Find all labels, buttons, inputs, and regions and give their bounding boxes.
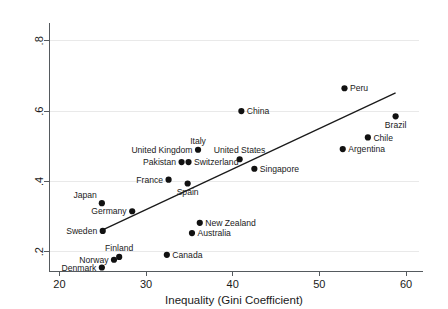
data-point[interactable] (164, 252, 170, 258)
data-point[interactable] (111, 257, 117, 263)
data-point[interactable] (165, 177, 171, 183)
y-tick-label: .2 (33, 247, 45, 256)
data-point-label: Switzerland (194, 157, 239, 167)
x-tick-label: 60 (400, 278, 412, 290)
data-point-label: Italy (190, 136, 206, 146)
data-point[interactable] (393, 113, 399, 119)
data-point-label: Brazil (385, 120, 407, 130)
data-point-label: United Kingdom (131, 145, 192, 155)
data-point-label: Peru (350, 83, 368, 93)
data-point[interactable] (99, 200, 105, 206)
data-point[interactable] (341, 85, 347, 91)
data-point-label: Germany (91, 206, 127, 216)
data-point[interactable] (185, 159, 191, 165)
data-point-label: Singapore (260, 164, 299, 174)
data-point[interactable] (195, 147, 201, 153)
x-tick-label: 30 (140, 278, 152, 290)
plot-area: .2.4.6.82030405060PeruChinaBrazilChileAr… (0, 0, 448, 309)
data-point-label: New Zealand (205, 218, 256, 228)
scatter-chart: .2.4.6.82030405060PeruChinaBrazilChileAr… (0, 0, 448, 309)
data-point-label: United States (214, 145, 266, 155)
data-point-label: Chile (373, 133, 393, 143)
data-point[interactable] (99, 264, 105, 270)
data-point-label: China (247, 106, 270, 116)
data-point-label: Finland (105, 243, 133, 253)
data-point-label: Australia (197, 228, 231, 238)
data-point[interactable] (178, 159, 184, 165)
data-point-label: Spain (177, 187, 199, 197)
data-point-label: Denmark (61, 263, 97, 273)
data-point-label: Canada (172, 250, 202, 260)
data-point-label: Argentina (348, 144, 385, 154)
y-tick-label: .4 (33, 177, 45, 186)
x-tick-label: 20 (53, 278, 65, 290)
data-point[interactable] (129, 208, 135, 214)
data-point-label: Pakistan (143, 157, 176, 167)
x-axis-title: Inequality (Gini Coefficient) (165, 294, 303, 306)
y-tick-label: .8 (33, 36, 45, 45)
data-point[interactable] (238, 108, 244, 114)
data-point[interactable] (185, 180, 191, 186)
data-point[interactable] (100, 228, 106, 234)
data-point[interactable] (340, 146, 346, 152)
data-point[interactable] (189, 230, 195, 236)
data-point[interactable] (197, 220, 203, 226)
data-point-label: Sweden (66, 226, 97, 236)
data-point[interactable] (365, 134, 371, 140)
y-tick-label: .6 (33, 107, 45, 116)
x-tick-label: 50 (313, 278, 325, 290)
data-point-label: France (136, 175, 163, 185)
x-tick-label: 40 (227, 278, 239, 290)
data-point[interactable] (251, 166, 257, 172)
data-point-label: Japan (73, 190, 97, 200)
